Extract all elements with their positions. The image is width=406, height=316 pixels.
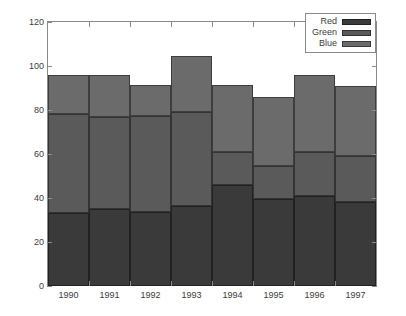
bar-segment-blue — [253, 97, 294, 166]
y-axis-tick-mark — [47, 242, 52, 243]
y-axis-tick-label: 100 — [0, 61, 44, 71]
x-axis-tick-mark-top — [294, 22, 295, 27]
legend-label: Red — [320, 16, 337, 27]
y-axis-tick-mark-right — [372, 286, 377, 287]
x-axis-tick-label: 1993 — [181, 290, 201, 300]
bar-segment-red — [212, 185, 253, 286]
legend-item-green: Green — [312, 27, 371, 38]
bar-segment-green — [294, 152, 335, 196]
bar-group — [171, 22, 212, 286]
bar-segment-green — [89, 117, 130, 209]
x-axis-tick-mark-bottom — [130, 281, 131, 286]
y-axis-tick-mark-right — [372, 242, 377, 243]
legend-swatch — [342, 41, 371, 47]
bar-segment-red — [89, 209, 130, 286]
y-axis-tick-label: 0 — [0, 281, 44, 291]
bar-segment-green — [130, 116, 171, 213]
x-axis-tick-mark-bottom — [335, 281, 336, 286]
x-axis-tick-mark-top — [253, 22, 254, 27]
bar-segment-blue — [130, 85, 171, 116]
bar-segment-red — [171, 206, 212, 286]
bar-segment-red — [294, 196, 335, 286]
bar-segment-green — [48, 114, 89, 213]
y-axis-tick-mark-right — [372, 154, 377, 155]
bar-group — [212, 22, 253, 286]
bars-layer — [48, 22, 376, 286]
y-axis-tick-mark — [47, 154, 52, 155]
bar-segment-blue — [335, 86, 376, 156]
x-axis-tick-label: 1990 — [58, 290, 78, 300]
x-axis-tick-label: 1996 — [304, 290, 324, 300]
bar-segment-red — [48, 213, 89, 286]
x-axis-tick-mark-bottom — [294, 281, 295, 286]
bar-segment-blue — [212, 85, 253, 152]
x-axis-tick-mark-bottom — [253, 281, 254, 286]
y-axis-tick-mark — [47, 22, 52, 23]
chart-legend: RedGreenBlue — [305, 13, 376, 53]
x-axis-tick-mark-top — [130, 22, 131, 27]
y-axis-tick-mark-right — [372, 66, 377, 67]
bar-segment-green — [253, 166, 294, 199]
x-axis-tick-label: 1991 — [99, 290, 119, 300]
y-axis-tick-mark — [47, 66, 52, 67]
bar-segment-red — [253, 199, 294, 286]
y-axis-tick-label: 120 — [0, 17, 44, 27]
y-axis-tick-mark-right — [372, 198, 377, 199]
y-axis-tick-mark — [47, 286, 52, 287]
x-axis-tick-mark-bottom — [171, 281, 172, 286]
bar-segment-green — [212, 152, 253, 185]
bar-group — [335, 22, 376, 286]
legend-item-red: Red — [312, 16, 371, 27]
bar-segment-blue — [294, 75, 335, 152]
bar-segment-red — [130, 212, 171, 286]
x-axis-tick-label: 1997 — [345, 290, 365, 300]
stacked-bar-chart: 020406080100120 199019911992199319941995… — [0, 0, 406, 316]
x-axis-tick-mark-top — [89, 22, 90, 27]
y-axis-tick-mark-right — [372, 110, 377, 111]
legend-swatch — [342, 30, 371, 36]
x-axis-tick-label: 1995 — [263, 290, 283, 300]
y-axis-tick-mark — [47, 198, 52, 199]
bar-segment-green — [171, 112, 212, 206]
bar-segment-blue — [171, 56, 212, 112]
y-axis-tick-mark — [47, 110, 52, 111]
y-axis-tick-label: 60 — [0, 149, 44, 159]
y-axis-tick-label: 80 — [0, 105, 44, 115]
y-axis-tick-label: 20 — [0, 237, 44, 247]
bar-segment-red — [335, 202, 376, 286]
x-axis-tick-mark-top — [171, 22, 172, 27]
y-axis-tick-label: 40 — [0, 193, 44, 203]
bar-group — [48, 22, 89, 286]
legend-label: Blue — [319, 38, 337, 49]
bar-group — [253, 22, 294, 286]
bar-segment-blue — [89, 75, 130, 117]
bar-segment-green — [335, 156, 376, 202]
legend-label: Green — [312, 27, 337, 38]
x-axis-tick-mark-top — [212, 22, 213, 27]
bar-group — [130, 22, 171, 286]
x-axis-tick-label: 1992 — [140, 290, 160, 300]
legend-item-blue: Blue — [312, 38, 371, 49]
legend-swatch — [342, 19, 371, 25]
bar-segment-blue — [48, 75, 89, 115]
bar-group — [294, 22, 335, 286]
x-axis-tick-label: 1994 — [222, 290, 242, 300]
x-axis-tick-mark-bottom — [212, 281, 213, 286]
bar-group — [89, 22, 130, 286]
x-axis-tick-mark-bottom — [89, 281, 90, 286]
